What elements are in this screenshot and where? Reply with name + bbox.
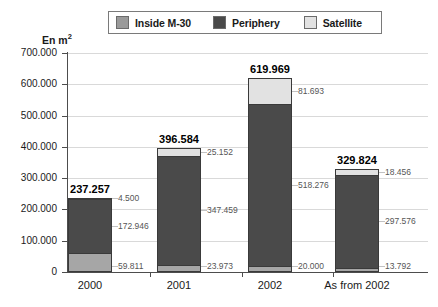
y-axis-tick (62, 241, 68, 242)
bar-value-label-2001-periphery: 347.459 (207, 205, 238, 215)
bar-total-label-2001: 396.584 (134, 133, 224, 145)
y-axis-tick-label: 600.000 (0, 79, 57, 89)
gridline (68, 53, 428, 54)
legend-item-periphery: Periphery (213, 12, 280, 33)
y-axis-tick-label: 100.000 (0, 236, 57, 246)
bar-segment-satellite[interactable] (248, 78, 292, 104)
legend-label: Inside M-30 (135, 17, 191, 29)
y-axis-tick-label: 300.000 (0, 173, 57, 183)
bar-total-label-2002: 619.969 (225, 63, 315, 75)
y-axis-tick-label: 700.000 (0, 48, 57, 58)
y-axis-tick (62, 84, 68, 85)
x-axis-category-separator (150, 272, 151, 277)
value-label-leader-line (292, 266, 298, 267)
value-label-leader-line (292, 91, 298, 92)
bar-value-label-2000-satellite: 4.500 (118, 193, 139, 203)
bar-as-from-2002[interactable] (335, 169, 379, 272)
y-axis-tick (62, 116, 68, 117)
y-axis-tick-label: 0 (0, 267, 57, 277)
bar-segment-inside-m-30[interactable] (68, 253, 112, 272)
x-axis-category-label-as-from-2002: As from 2002 (312, 279, 402, 291)
value-label-leader-line (201, 152, 207, 153)
y-axis-title-exponent: 2 (68, 32, 72, 41)
y-axis-tick-label: 400.000 (0, 142, 57, 152)
legend-item-satellite: Satellite (304, 12, 362, 33)
chart-legend: Inside M-30 Periphery Satellite (108, 11, 382, 34)
bar-value-label-as-from-2002-satellite: 18.456 (385, 167, 411, 177)
bar-value-label-2000-inside-m-30: 59.811 (118, 261, 143, 271)
y-axis-tick-label: 500.000 (0, 111, 57, 121)
legend-item-inside-m30: Inside M-30 (116, 12, 191, 33)
value-label-leader-line (201, 266, 207, 267)
bar-value-label-2001-inside-m-30: 23.973 (207, 261, 233, 271)
bar-value-label-2000-periphery: 172.946 (118, 221, 149, 231)
legend-swatch-icon (304, 16, 317, 29)
bar-value-label-2001-satellite: 25.152 (207, 147, 233, 157)
bar-2002[interactable] (248, 78, 292, 272)
x-axis-category-label-2002: 2002 (225, 279, 315, 291)
legend-swatch-icon (116, 16, 129, 29)
legend-label: Periphery (232, 17, 280, 29)
value-label-leader-line (379, 172, 385, 173)
bar-segment-inside-m-30[interactable] (157, 265, 201, 273)
value-label-leader-line (379, 266, 385, 267)
y-axis-tick (62, 272, 68, 273)
bar-2000[interactable] (68, 198, 112, 272)
bar-segment-periphery[interactable] (157, 156, 201, 265)
y-axis-tick (62, 53, 68, 54)
y-axis-tick (62, 147, 68, 148)
x-axis-line (62, 272, 428, 273)
bar-segment-inside-m-30[interactable] (335, 268, 379, 272)
y-axis-tick-label: 200.000 (0, 204, 57, 214)
bar-segment-periphery[interactable] (68, 199, 112, 253)
y-axis-tick (62, 209, 68, 210)
x-axis-category-separator (242, 272, 243, 277)
value-label-leader-line (379, 221, 385, 222)
bar-segment-periphery[interactable] (248, 104, 292, 266)
bar-2001[interactable] (157, 148, 201, 272)
y-axis-title: En m2 (42, 32, 72, 46)
bar-value-label-2002-satellite: 81.693 (298, 86, 324, 96)
x-axis-category-label-2001: 2001 (134, 279, 224, 291)
y-axis-title-text: En m (42, 34, 68, 46)
legend-swatch-icon (213, 16, 226, 29)
x-axis-category-label-2000: 2000 (45, 279, 135, 291)
legend-label: Satellite (323, 17, 362, 29)
bar-segment-inside-m-30[interactable] (248, 266, 292, 272)
value-label-leader-line (112, 226, 118, 227)
bar-segment-satellite[interactable] (157, 148, 201, 156)
value-label-leader-line (112, 266, 118, 267)
value-label-leader-line (201, 210, 207, 211)
bar-segment-periphery[interactable] (335, 175, 379, 268)
value-label-leader-line (112, 198, 118, 199)
bar-value-label-as-from-2002-periphery: 297.576 (385, 216, 416, 226)
bar-value-label-as-from-2002-inside-m-30: 13.792 (385, 261, 411, 271)
x-axis-category-separator (333, 272, 334, 277)
bar-value-label-2002-inside-m-30: 20.000 (298, 261, 324, 271)
bar-value-label-2002-periphery: 518.276 (298, 180, 329, 190)
value-label-leader-line (292, 185, 298, 186)
bar-total-label-as-from-2002: 329.824 (312, 154, 402, 166)
y-axis-tick (62, 178, 68, 179)
